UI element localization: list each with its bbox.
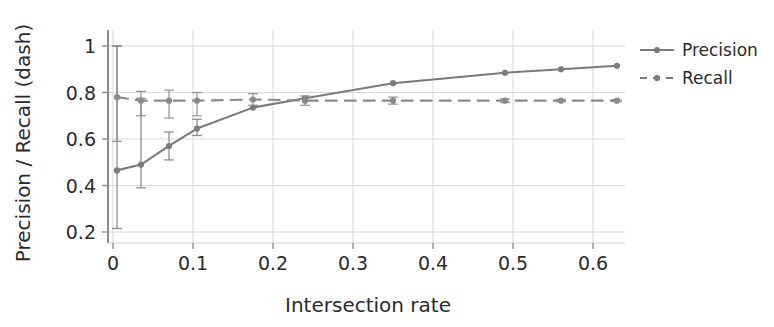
data-point bbox=[166, 143, 172, 149]
legend-swatch-marker bbox=[654, 75, 660, 81]
legend-label: Recall bbox=[682, 68, 733, 88]
data-point bbox=[502, 98, 508, 104]
legend-swatch-marker bbox=[654, 47, 660, 53]
x-tick-label: 0.2 bbox=[258, 252, 288, 274]
data-point bbox=[390, 98, 396, 104]
data-point bbox=[250, 96, 256, 102]
chart-figure: 0.20.40.60.81 00.10.20.30.40.50.6 Inters… bbox=[0, 0, 774, 327]
x-axis-title: Intersection rate bbox=[285, 293, 451, 317]
data-point bbox=[614, 63, 620, 69]
data-point bbox=[302, 98, 308, 104]
y-tick-label: 0.2 bbox=[66, 221, 96, 243]
x-tick-label: 0.5 bbox=[498, 252, 528, 274]
legend-label: Precision bbox=[682, 40, 758, 60]
data-point bbox=[114, 167, 120, 173]
x-tick-label: 0.1 bbox=[178, 252, 208, 274]
data-point bbox=[558, 98, 564, 104]
data-point bbox=[194, 98, 200, 104]
data-point bbox=[138, 98, 144, 104]
y-tick-label: 1 bbox=[84, 35, 96, 57]
data-point bbox=[558, 66, 564, 72]
x-tick-label: 0.6 bbox=[578, 252, 608, 274]
y-tick-label: 0.4 bbox=[66, 175, 96, 197]
data-point bbox=[502, 70, 508, 76]
data-point bbox=[390, 80, 396, 86]
x-tick-label: 0.3 bbox=[338, 252, 368, 274]
y-tick-label: 0.6 bbox=[66, 128, 96, 150]
x-tick-label: 0 bbox=[107, 252, 119, 274]
data-point bbox=[114, 94, 120, 100]
y-axis-title: Precision / Recall (dash) bbox=[11, 24, 35, 262]
x-tick-label: 0.4 bbox=[418, 252, 448, 274]
data-point bbox=[166, 98, 172, 104]
data-point bbox=[138, 161, 144, 167]
data-point bbox=[194, 125, 200, 131]
precision-recall-plot: 0.20.40.60.81 00.10.20.30.40.50.6 Inters… bbox=[0, 0, 774, 327]
y-tick-label: 0.8 bbox=[66, 82, 96, 104]
data-point bbox=[614, 98, 620, 104]
